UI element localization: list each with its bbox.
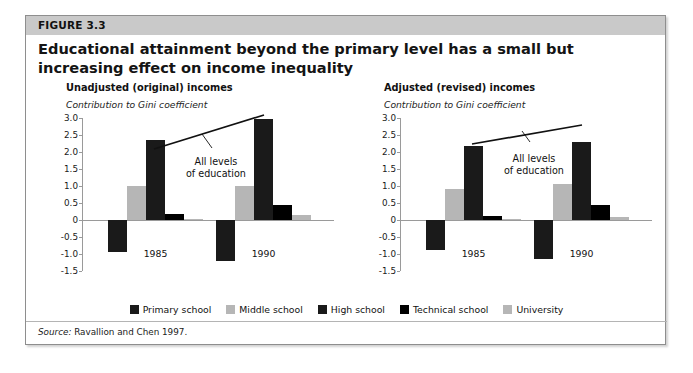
- y-axis-tick-label: 1.0: [370, 181, 396, 191]
- y-axis-tick-label: 0: [52, 215, 78, 225]
- bar: [146, 140, 165, 220]
- y-axis-tick-label: -1.5: [52, 266, 78, 276]
- x-axis-group-label: 1990: [234, 248, 294, 259]
- panel-subtitle-adjusted: Contribution to Gini coefficient: [384, 99, 525, 110]
- panel-title-unadjusted: Unadjusted (original) incomes: [66, 82, 233, 93]
- bar: [610, 217, 629, 220]
- source-text: Ravallion and Chen 1997.: [71, 327, 187, 337]
- figure-number-band: FIGURE 3.3: [26, 16, 665, 35]
- bar: [572, 142, 591, 220]
- bar: [184, 219, 203, 220]
- legend-label: Primary school: [143, 304, 212, 315]
- bar: [591, 205, 610, 220]
- y-axis-tick-label: -1.0: [52, 249, 78, 259]
- annotation-all-levels-unadjusted: All levels of education: [186, 156, 246, 179]
- legend-label: High school: [331, 304, 385, 315]
- y-axis-tick-label: 0.5: [370, 198, 396, 208]
- source-divider: [26, 321, 667, 322]
- source-label: Source:: [38, 327, 71, 337]
- plot-area-unadjusted: 3.02.52.01.51.00.50-0.5-1.0-1.5 19851990…: [82, 118, 334, 271]
- y-axis-tick-label: 3.0: [370, 113, 396, 123]
- bar: [553, 184, 572, 220]
- y-axis-tick-label: -0.5: [52, 232, 78, 242]
- bar: [254, 119, 273, 220]
- annotation-all-levels-adjusted: All levels of education: [504, 153, 564, 176]
- figure-container: FIGURE 3.3 Educational attainment beyond…: [25, 15, 666, 345]
- y-axis-tick-mark: [397, 169, 400, 170]
- y-axis-tick-label: 1.5: [370, 164, 396, 174]
- y-axis-tick-label: 1.5: [52, 164, 78, 174]
- chart-legend: Primary schoolMiddle schoolHigh schoolTe…: [26, 304, 667, 315]
- y-axis-tick-mark: [397, 237, 400, 238]
- annotation-line-2: of education: [186, 168, 246, 180]
- panel-title-adjusted: Adjusted (revised) incomes: [384, 82, 535, 93]
- y-axis-tick-label: 2.0: [52, 147, 78, 157]
- y-axis-tick-mark: [397, 186, 400, 187]
- plot-area-adjusted: 3.02.52.01.51.00.50-0.5-1.0-1.5 19851990…: [400, 118, 652, 271]
- legend-label: Technical school: [413, 304, 488, 315]
- bar: [534, 220, 553, 259]
- bar: [108, 220, 127, 252]
- y-axis-tick-label: 0.5: [52, 198, 78, 208]
- y-axis-tick-mark: [79, 220, 82, 221]
- chart-panel-adjusted: Adjusted (revised) incomes Contribution …: [356, 82, 668, 297]
- y-axis-tick-mark: [79, 271, 82, 272]
- panel-subtitle-unadjusted: Contribution to Gini coefficient: [66, 99, 207, 110]
- y-axis-tick-label: 2.5: [370, 130, 396, 140]
- y-axis-tick-label: -1.0: [370, 249, 396, 259]
- bar: [127, 186, 146, 220]
- y-axis-tick-mark: [397, 203, 400, 204]
- bar: [216, 220, 235, 261]
- y-axis-tick-mark: [79, 254, 82, 255]
- bar: [502, 219, 521, 220]
- y-axis-line: [400, 118, 401, 271]
- legend-swatch-icon: [130, 305, 139, 314]
- annotation-line-1: All levels: [186, 156, 246, 168]
- y-axis-tick-label: 0: [370, 215, 396, 225]
- source-note: Source: Ravallion and Chen 1997.: [38, 327, 187, 337]
- bar: [483, 216, 502, 220]
- y-axis-tick-label: 2.5: [52, 130, 78, 140]
- y-axis-tick-mark: [79, 152, 82, 153]
- y-axis-tick-label: 1.0: [52, 181, 78, 191]
- legend-swatch-icon: [226, 305, 235, 314]
- y-axis-line: [82, 118, 83, 271]
- legend-item: Primary school: [130, 304, 212, 315]
- x-axis-group-label: 1985: [126, 248, 186, 259]
- figure-title: Educational attainment beyond the primar…: [38, 40, 650, 77]
- x-axis-group-label: 1985: [444, 248, 504, 259]
- figure-number-label: FIGURE 3.3: [38, 19, 106, 31]
- bar: [273, 205, 292, 220]
- y-axis-tick-label: -1.5: [370, 266, 396, 276]
- legend-swatch-icon: [318, 305, 327, 314]
- y-axis-tick-mark: [397, 118, 400, 119]
- chart-panel-unadjusted: Unadjusted (original) incomes Contributi…: [38, 82, 350, 297]
- y-axis-tick-mark: [397, 220, 400, 221]
- legend-item: University: [503, 304, 563, 315]
- bar: [235, 186, 254, 220]
- annotation-line-1: All levels: [504, 153, 564, 165]
- annotation-line-2: of education: [504, 165, 564, 177]
- y-axis-tick-mark: [397, 254, 400, 255]
- bar: [464, 146, 483, 220]
- x-axis-group-label: 1990: [552, 248, 612, 259]
- legend-item: Middle school: [226, 304, 302, 315]
- legend-label: University: [516, 304, 563, 315]
- legend-item: Technical school: [400, 304, 488, 315]
- y-axis-tick-mark: [397, 135, 400, 136]
- legend-label: Middle school: [239, 304, 302, 315]
- bar: [292, 215, 311, 220]
- y-axis-tick-mark: [397, 271, 400, 272]
- y-axis-tick-mark: [79, 186, 82, 187]
- y-axis-tick-mark: [79, 203, 82, 204]
- y-axis-tick-mark: [79, 135, 82, 136]
- bar: [426, 220, 445, 250]
- legend-swatch-icon: [400, 305, 409, 314]
- y-axis-tick-label: 2.0: [370, 147, 396, 157]
- y-axis-tick-label: -0.5: [370, 232, 396, 242]
- y-axis-tick-mark: [79, 118, 82, 119]
- bar: [165, 214, 184, 220]
- legend-item: High school: [318, 304, 385, 315]
- bar: [445, 189, 464, 220]
- y-axis-tick-label: 3.0: [52, 113, 78, 123]
